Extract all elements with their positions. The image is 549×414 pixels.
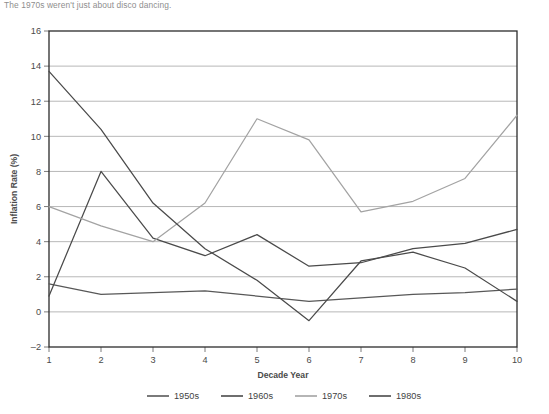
series-line-1980s	[49, 71, 517, 320]
y-tick-label: 12	[31, 97, 41, 107]
series-lines	[49, 71, 517, 320]
y-tick-label: 14	[31, 61, 41, 71]
y-tickmarks	[44, 31, 49, 347]
y-axis-tick-labels: –20246810121416	[31, 26, 41, 352]
y-tick-label: 4	[36, 237, 41, 247]
legend-label-1960s: 1960s	[248, 391, 273, 401]
x-axis-title: Decade Year	[258, 370, 310, 380]
series-line-1970s	[49, 115, 517, 241]
x-tick-label: 7	[358, 355, 363, 365]
plot-frame	[49, 31, 517, 347]
series-line-1950s	[49, 284, 517, 302]
x-tick-label: 1	[46, 355, 51, 365]
x-axis-tick-labels: 12345678910	[46, 355, 522, 365]
legend-label-1950s: 1950s	[174, 391, 199, 401]
y-axis-title: Inflation Rate (%)	[9, 154, 19, 224]
x-tick-label: 4	[202, 355, 207, 365]
y-tick-label: 8	[36, 167, 41, 177]
x-tick-label: 2	[98, 355, 103, 365]
x-tick-label: 6	[306, 355, 311, 365]
x-tick-label: 8	[410, 355, 415, 365]
series-line-1960s	[49, 171, 517, 296]
y-tick-label: 2	[36, 272, 41, 282]
gridlines	[49, 66, 517, 312]
legend-label-1980s: 1980s	[396, 391, 421, 401]
x-tick-label: 3	[150, 355, 155, 365]
y-tick-label: 0	[36, 307, 41, 317]
y-tick-label: 16	[31, 26, 41, 36]
x-tick-label: 9	[462, 355, 467, 365]
y-tick-label: 10	[31, 132, 41, 142]
x-tickmarks	[49, 347, 517, 352]
chart-figure: 12345678910 –20246810121416 Decade Year …	[0, 0, 549, 414]
y-tick-label: –2	[31, 342, 41, 352]
y-tick-label: 6	[36, 202, 41, 212]
x-tick-label: 10	[512, 355, 522, 365]
x-tick-label: 5	[254, 355, 259, 365]
legend-label-1970s: 1970s	[322, 391, 347, 401]
inflation-rate-line-chart: 12345678910 –20246810121416 Decade Year …	[0, 0, 549, 414]
chart-legend: 1950s1960s1970s1980s	[147, 391, 421, 401]
